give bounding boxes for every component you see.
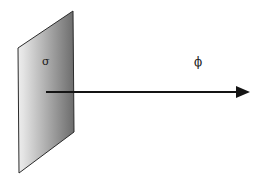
sigma-label: σ [42, 56, 50, 67]
figure-canvas: σ ϕ [0, 0, 259, 185]
phi-label: ϕ [194, 56, 202, 68]
physics-diagram [0, 0, 259, 185]
